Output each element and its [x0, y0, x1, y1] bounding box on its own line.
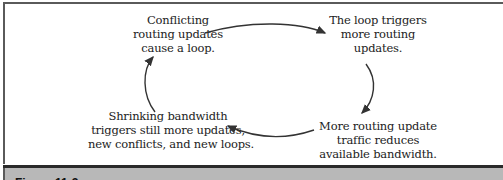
figure-label: Figure 11-3 [15, 176, 78, 180]
arrow-loop-to-traffic [362, 64, 374, 113]
arrow-conflicting-to-loop [205, 24, 325, 33]
cycle-arrows [0, 0, 503, 180]
arrow-shrinking-to-conflicting [145, 57, 155, 112]
arrow-traffic-to-shrinking [228, 126, 314, 136]
figure-caption-bar: Figure 11-3 [3, 168, 503, 180]
